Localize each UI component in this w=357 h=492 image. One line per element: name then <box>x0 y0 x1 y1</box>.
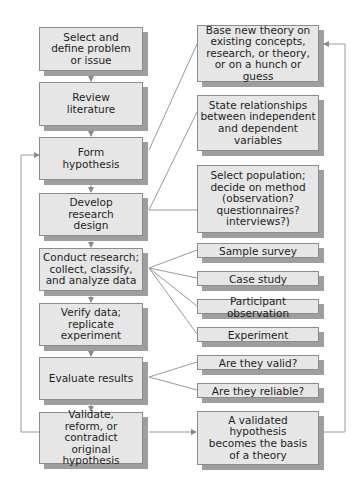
note-label: State relationships between independent … <box>200 100 315 146</box>
method-label: Participant observation <box>200 295 316 319</box>
step-evaluate-results: Evaluate results <box>39 357 143 400</box>
step-develop-research-design: Develop research design <box>39 193 143 236</box>
method-experiment: Experiment <box>197 327 319 342</box>
step-label: Conduct research; collect, classify, and… <box>43 252 139 287</box>
step-label: Select and define problem or issue <box>51 32 131 67</box>
step-form-hypothesis: Form hypothesis <box>39 137 143 180</box>
note-label: Base new theory on existing concepts, re… <box>200 25 316 83</box>
note-validated-hypothesis-theory: A validated hypothesis becomes the basis… <box>197 411 319 465</box>
method-label: Experiment <box>228 329 289 341</box>
method-case-study: Case study <box>197 271 319 286</box>
note-label: Select population; decide on method (obs… <box>210 170 305 228</box>
step-label: Review literature <box>67 92 115 115</box>
note-select-population: Select population; decide on method (obs… <box>197 165 319 233</box>
step-validate-reform-contradict: Validate, reform, or contradict original… <box>39 412 143 464</box>
step-review-literature: Review literature <box>39 82 143 126</box>
step-verify-data: Verify data; replicate experiment <box>39 303 143 346</box>
step-select-define-problem: Select and define problem or issue <box>39 27 143 71</box>
note-state-relationships: State relationships between independent … <box>197 95 319 151</box>
step-conduct-research: Conduct research; collect, classify, and… <box>39 248 143 291</box>
method-label: Case study <box>229 273 287 285</box>
note-base-new-theory: Base new theory on existing concepts, re… <box>197 25 319 82</box>
eval-are-they-valid: Are they valid? <box>197 355 319 370</box>
method-sample-survey: Sample survey <box>197 243 319 258</box>
method-label: Sample survey <box>219 245 297 257</box>
step-label: Develop research design <box>68 197 113 232</box>
method-participant-observation: Participant observation <box>197 299 319 314</box>
step-label: Form hypothesis <box>62 147 119 170</box>
step-label: Validate, reform, or contradict original… <box>42 409 140 467</box>
step-label: Evaluate results <box>49 373 133 385</box>
eval-label: Are they reliable? <box>212 385 304 397</box>
eval-label: Are they valid? <box>219 357 298 369</box>
note-label: A validated hypothesis becomes the basis… <box>209 415 307 461</box>
step-label: Verify data; replicate experiment <box>42 307 140 342</box>
eval-are-they-reliable: Are they reliable? <box>197 383 319 398</box>
